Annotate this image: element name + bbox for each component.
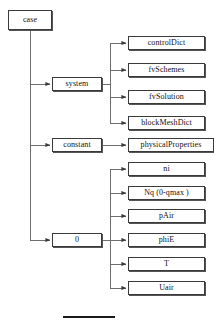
node-fvsolution[interactable]: fvSolution — [128, 90, 205, 104]
node-uair[interactable]: Uair — [128, 281, 205, 295]
node-system[interactable]: system — [52, 77, 102, 91]
node-physicalproperties[interactable]: physicalProperties — [128, 138, 214, 152]
diagram-canvas: case system constant 0 controlDict fvSch… — [0, 0, 214, 321]
footer-rule — [63, 316, 115, 318]
node-phie[interactable]: phiE — [128, 233, 205, 247]
node-constant[interactable]: constant — [52, 138, 102, 152]
node-case[interactable]: case — [8, 10, 52, 30]
node-blockmeshdict[interactable]: blockMeshDict — [128, 116, 205, 130]
node-pair[interactable]: pAir — [128, 209, 205, 223]
node-controldict[interactable]: controlDict — [128, 36, 205, 50]
node-ni[interactable]: ni — [128, 162, 205, 176]
node-t[interactable]: T — [128, 257, 205, 271]
node-fvschemes[interactable]: fvSchemes — [128, 63, 205, 77]
node-nq[interactable]: Nq (0-qmax ) — [128, 186, 205, 200]
node-zero[interactable]: 0 — [52, 233, 102, 247]
